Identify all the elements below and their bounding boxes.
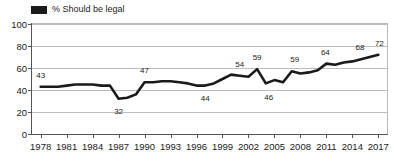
x-tick-mark (171, 134, 172, 138)
x-tick-label: 1987 (108, 141, 129, 152)
line-chart: % Should be legal 100806040200 197819811… (0, 0, 394, 164)
y-tick-label: 20 (16, 107, 27, 118)
x-tick-mark (300, 134, 301, 138)
x-tick-mark (67, 134, 68, 138)
y-tick-label: 80 (16, 41, 27, 52)
x-tick-mark (326, 134, 327, 138)
x-tick-mark (93, 134, 94, 138)
y-tick-label: 60 (16, 63, 27, 74)
x-tick-label: 2002 (238, 141, 259, 152)
y-tick-label: 0 (22, 129, 27, 140)
x-tick-label: 2008 (290, 141, 311, 152)
x-tick-mark (41, 134, 42, 138)
x-tick-label: 2011 (316, 141, 336, 152)
x-tick-label: 1984 (82, 141, 103, 152)
x-tick-mark (274, 134, 275, 138)
x-tick-mark (197, 134, 198, 138)
series-line-should-be-legal (32, 24, 387, 134)
x-tick-label: 1993 (160, 141, 181, 152)
legend-label-should-be-legal: % Should be legal (52, 5, 125, 14)
x-tick-mark (222, 134, 223, 138)
x-tick-mark (352, 134, 353, 138)
y-tick-mark (28, 134, 32, 135)
x-tick-label: 1996 (186, 141, 207, 152)
x-tick-label: 1978 (30, 141, 51, 152)
x-tick-label: 2005 (264, 141, 285, 152)
x-tick-mark (378, 134, 379, 138)
legend-swatch-should-be-legal (31, 6, 47, 14)
x-tick-label: 2017 (368, 141, 389, 152)
x-tick-label: 1999 (212, 141, 233, 152)
series-line (41, 55, 379, 99)
plot-area: 100806040200 197819811984198719901993199… (31, 23, 388, 135)
x-tick-mark (145, 134, 146, 138)
x-tick-label: 1990 (134, 141, 155, 152)
x-tick-mark (119, 134, 120, 138)
x-tick-label: 1981 (56, 141, 77, 152)
x-tick-mark (248, 134, 249, 138)
y-tick-label: 100 (11, 19, 27, 30)
chart-legend: % Should be legal (31, 3, 125, 16)
x-tick-label: 2014 (342, 141, 363, 152)
y-tick-label: 40 (16, 85, 27, 96)
